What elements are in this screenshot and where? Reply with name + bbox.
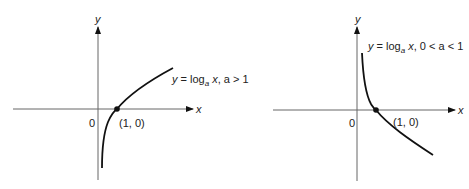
right-point-label: (1, 0) <box>393 117 419 128</box>
left-graph <box>13 27 193 180</box>
left-curve-label-condition: a > 1 <box>224 73 249 85</box>
right-origin-label: 0 <box>349 118 355 129</box>
graphs-canvas <box>0 0 469 189</box>
left-origin-label: 0 <box>89 118 95 129</box>
right-curve-label: y = loga x, 0 < a < 1 <box>368 41 463 55</box>
left-curve-label-var: x <box>209 73 218 85</box>
left-curve-label: y = loga x, a > 1 <box>172 74 249 88</box>
left-point-label: (1, 0) <box>119 118 145 129</box>
right-log-curve <box>362 53 433 155</box>
right-y-axis-label: y <box>355 14 361 25</box>
right-point-1-0 <box>373 107 379 113</box>
right-curve-label-var: x <box>405 40 414 52</box>
left-curve-label-eq: = log <box>178 73 205 85</box>
left-x-axis-label: x <box>196 104 202 115</box>
left-point-1-0 <box>114 106 120 112</box>
right-curve-label-eq: = log <box>374 40 401 52</box>
right-x-axis-label: x <box>458 105 464 116</box>
left-y-axis-label: y <box>95 14 101 25</box>
right-curve-label-condition: 0 < a < 1 <box>420 40 463 52</box>
log-graphs-figure: y x 0 (1, 0) y = loga x, a > 1 y x 0 (1,… <box>0 0 469 189</box>
